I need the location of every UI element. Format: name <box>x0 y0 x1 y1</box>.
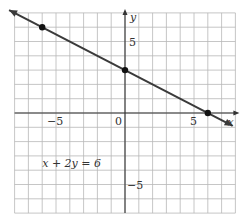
coordinate-plane: x y −5 0 5 5 −5 x + 2y = 6 <box>0 0 246 224</box>
y-axis-label: y <box>129 11 137 24</box>
x-tick-label-neg5: −5 <box>47 115 63 128</box>
x-axis-label: x <box>227 116 234 129</box>
y-tick-label-5: 5 <box>129 36 136 49</box>
y-tick-label-neg5: −5 <box>127 179 143 192</box>
origin-label: 0 <box>115 115 122 128</box>
x-tick-label-5: 5 <box>190 115 197 128</box>
equation-annotation: x + 2y = 6 <box>42 157 101 170</box>
